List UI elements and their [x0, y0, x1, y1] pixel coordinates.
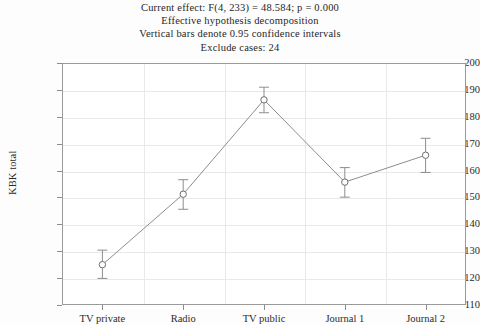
- gridline-vertical: [386, 64, 387, 304]
- plot-area: [62, 63, 466, 305]
- x-tick-label: TV private: [80, 313, 126, 324]
- chart-title-line-2: Effective hypothesis decomposition: [0, 14, 480, 27]
- gridline-horizontal: [63, 252, 465, 253]
- gridline-horizontal: [63, 198, 465, 199]
- x-tick-mark: [264, 305, 265, 310]
- x-tick-label: Journal 1: [325, 313, 364, 324]
- y-tick-mark: [57, 305, 62, 306]
- x-tick-mark: [183, 305, 184, 310]
- x-tick-mark: [345, 305, 346, 310]
- chart-title-line-4: Exclude cases: 24: [0, 41, 480, 54]
- chart-title-block: Current effect: F(4, 233) = 48.584; p = …: [0, 1, 480, 54]
- chart-title-line-3: Vertical bars denote 0.95 confidence int…: [0, 27, 480, 40]
- x-tick-mark: [102, 305, 103, 310]
- x-tick-mark: [426, 305, 427, 310]
- gridline-horizontal: [63, 225, 465, 226]
- gridline-horizontal: [63, 172, 465, 173]
- y-axis-title: KBK total: [7, 151, 18, 195]
- gridline-horizontal: [63, 279, 465, 280]
- gridline-horizontal: [63, 145, 465, 146]
- x-tick-label: Journal 2: [406, 313, 445, 324]
- gridline-vertical: [305, 64, 306, 304]
- chart-title-line-1: Current effect: F(4, 233) = 48.584; p = …: [0, 1, 480, 14]
- figure-canvas: Current effect: F(4, 233) = 48.584; p = …: [0, 0, 480, 325]
- x-tick-label: TV public: [243, 313, 286, 324]
- gridline-vertical: [144, 64, 145, 304]
- x-tick-label: Radio: [171, 313, 196, 324]
- gridline-vertical: [225, 64, 226, 304]
- gridline-horizontal: [63, 118, 465, 119]
- gridline-horizontal: [63, 91, 465, 92]
